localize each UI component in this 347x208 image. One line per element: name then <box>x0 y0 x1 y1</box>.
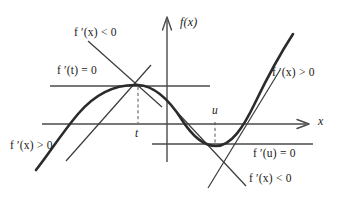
annotation-bottom-right-slope: f ′(x) < 0 <box>249 172 292 184</box>
figure-canvas <box>0 0 347 208</box>
point-label-u: u <box>212 104 218 116</box>
x-axis-label: x <box>318 114 324 129</box>
annotation-top-left-slope-text: f ′(x) < 0 <box>74 26 117 38</box>
y-axis-label-text: f(x) <box>180 15 197 29</box>
annotation-left-slope-text: f ′(x) > 0 <box>10 139 53 151</box>
annotation-tangent-at-u: f ′(u) = 0 <box>253 147 296 159</box>
point-label-t-text: t <box>135 127 138 139</box>
annotation-right-slope-text: f ′(x) > 0 <box>272 66 315 78</box>
x-axis-label-text: x <box>318 114 324 128</box>
annotation-top-left-slope: f ′(x) < 0 <box>74 26 117 38</box>
annotation-bottom-right-slope-text: f ′(x) < 0 <box>249 172 292 184</box>
y-axis-label: f(x) <box>180 15 197 30</box>
tangent-line-negative-slope-right <box>176 111 246 186</box>
derivative-sign-figure: f(x) x t u f ′(x) < 0 f ′(t) = 0 f ′(x) … <box>0 0 347 208</box>
tangent-line-negative-slope-left <box>88 41 162 107</box>
tangent-line-positive-slope-right <box>208 70 280 188</box>
point-label-t: t <box>135 127 138 139</box>
annotation-tangent-at-t: f ′(t) = 0 <box>57 64 97 76</box>
annotation-tangent-at-u-text: f ′(u) = 0 <box>253 147 296 159</box>
annotation-left-slope: f ′(x) > 0 <box>10 139 53 151</box>
point-label-u-text: u <box>212 104 218 116</box>
annotation-tangent-at-t-text: f ′(t) = 0 <box>57 64 97 76</box>
annotation-right-slope: f ′(x) > 0 <box>272 66 315 78</box>
